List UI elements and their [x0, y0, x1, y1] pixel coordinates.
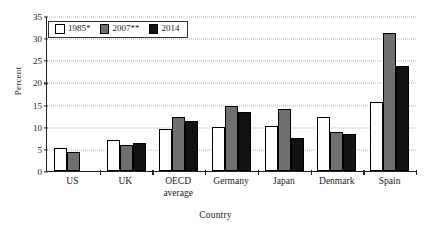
bar: [317, 117, 330, 171]
bar: [107, 140, 120, 171]
x-category-label-line: Spain: [363, 176, 416, 188]
x-axis-title: Country: [0, 210, 431, 220]
legend-item: 2014: [149, 24, 180, 34]
bar: [291, 138, 304, 171]
bar-group: [152, 17, 205, 171]
bar: [370, 102, 383, 171]
bar-chart: Percent 05101520253035 USUKOECDaverageGe…: [0, 0, 431, 237]
bar-groups: [47, 17, 416, 171]
legend-label: 2007**: [113, 24, 140, 33]
x-category-label: US: [46, 176, 99, 199]
bar: [172, 117, 185, 171]
bar: [225, 106, 238, 171]
x-axis-category-labels: USUKOECDaverageGermanyJapanDenmarkSpain: [46, 176, 416, 199]
legend-swatch-icon: [55, 24, 65, 34]
bar-group: [47, 17, 100, 171]
x-category-label-line: Japan: [257, 176, 310, 188]
x-category-label: Spain: [363, 176, 416, 199]
bar-group: [363, 17, 416, 171]
legend-swatch-icon: [100, 24, 110, 34]
bar-group: [258, 17, 311, 171]
x-category-label-line: Denmark: [310, 176, 363, 188]
bar: [212, 127, 225, 171]
y-axis-title: Percent: [13, 41, 23, 121]
x-category-label-line: UK: [99, 176, 152, 188]
bar: [330, 132, 343, 171]
plot-area: 05101520253035: [46, 17, 416, 172]
y-tick-mark: [44, 171, 48, 172]
bar: [343, 134, 356, 171]
bar: [185, 121, 198, 171]
legend-swatch-icon: [149, 24, 159, 34]
bar-group: [311, 17, 364, 171]
x-category-label: OECDaverage: [152, 176, 205, 199]
legend-item: 1985*: [55, 24, 91, 34]
bar: [120, 145, 133, 171]
chart-legend: 1985*2007**2014: [48, 21, 188, 38]
bar: [159, 129, 172, 171]
bar-group: [205, 17, 258, 171]
x-category-label: Japan: [257, 176, 310, 199]
legend-item: 2007**: [100, 24, 140, 34]
bar-group: [100, 17, 153, 171]
bar: [265, 126, 278, 171]
bar: [67, 152, 80, 171]
bar: [383, 33, 396, 171]
x-tick-mark: [416, 170, 417, 175]
bar: [54, 148, 67, 171]
legend-label: 1985*: [68, 24, 91, 33]
bar: [396, 66, 409, 171]
x-category-label: Denmark: [310, 176, 363, 199]
x-category-label-line: US: [46, 176, 99, 188]
x-category-label: UK: [99, 176, 152, 199]
x-category-label-line: average: [152, 188, 205, 200]
x-category-label-line: OECD: [152, 176, 205, 188]
bar: [278, 109, 291, 171]
bar: [133, 143, 146, 171]
x-category-label: Germany: [205, 176, 258, 199]
bar: [238, 112, 251, 171]
legend-label: 2014: [162, 24, 180, 33]
x-category-label-line: Germany: [205, 176, 258, 188]
